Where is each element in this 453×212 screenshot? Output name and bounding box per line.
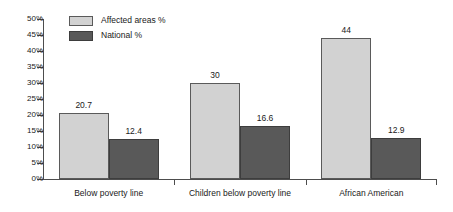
- legend-swatch-icon-national: [69, 31, 93, 41]
- y-axis-tick-label: 5%: [11, 159, 43, 167]
- bar-value-label: 16.6: [240, 114, 290, 123]
- x-axis-category-label: Below poverty line: [43, 189, 174, 198]
- bar: [321, 38, 371, 179]
- legend-item-affected-areas: Affected areas %: [69, 14, 166, 27]
- legend-swatch-icon-affected-areas: [69, 16, 93, 26]
- bar-value-label: 12.9: [371, 126, 421, 135]
- y-axis-tick-label: 35%: [11, 63, 43, 71]
- x-axis-line: [43, 179, 437, 180]
- y-axis-tick-label: 50%: [11, 15, 43, 23]
- y-axis-tick-label: 20%: [11, 111, 43, 119]
- bar-value-label: 20.7: [59, 101, 109, 110]
- bar-value-label: 30: [190, 71, 240, 80]
- x-axis-separator-tick: [306, 180, 307, 185]
- bar: [109, 139, 159, 179]
- y-axis-line: [43, 19, 44, 180]
- x-axis-separator-tick: [174, 180, 175, 185]
- bar: [240, 126, 290, 179]
- bar: [59, 113, 109, 179]
- y-axis-tick-label: 10%: [11, 143, 43, 151]
- x-axis-category-label: African American: [306, 189, 437, 198]
- y-axis-tick-label: 40%: [11, 47, 43, 55]
- y-axis-tick-label: 25%: [11, 95, 43, 103]
- bar: [190, 83, 240, 179]
- bar: [371, 138, 421, 179]
- y-axis-tick-label: 15%: [11, 127, 43, 135]
- bar-value-label: 12.4: [109, 127, 159, 136]
- chart-legend: Affected areas % National %: [69, 14, 166, 44]
- legend-label-affected-areas: Affected areas %: [101, 16, 166, 25]
- y-axis-tick-label: 30%: [11, 79, 43, 87]
- legend-label-national: National %: [101, 31, 142, 40]
- bar-chart: Affected areas % National % 0%5%10%15%20…: [0, 0, 453, 212]
- legend-item-national: National %: [69, 29, 166, 42]
- x-axis-end-tick: [436, 180, 437, 185]
- y-axis-tick-label: 0%: [11, 175, 43, 183]
- bar-value-label: 44: [321, 26, 371, 35]
- y-axis-tick-label: 45%: [11, 31, 43, 39]
- x-axis-category-label: Children below poverty line: [174, 189, 305, 198]
